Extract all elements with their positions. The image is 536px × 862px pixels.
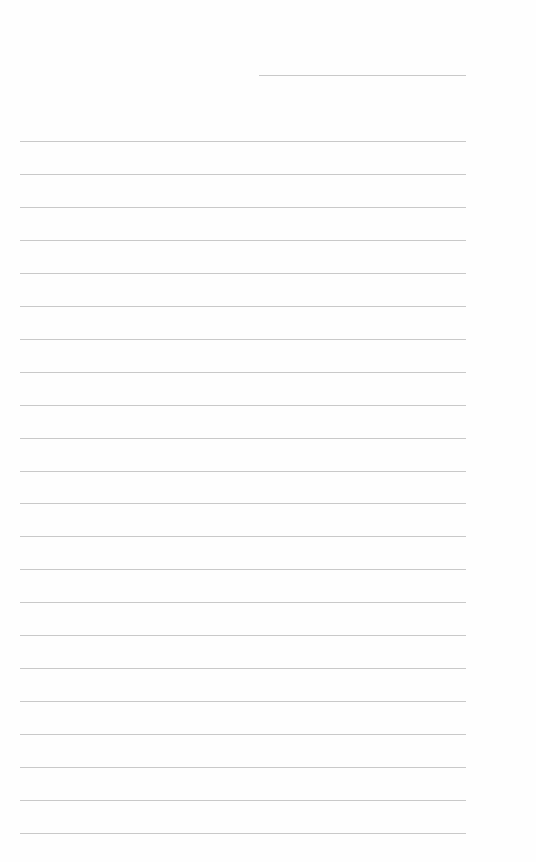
ruled-line: [20, 602, 466, 603]
ruled-line: [20, 372, 466, 373]
ruled-line: [20, 273, 466, 274]
ruled-line: [20, 438, 466, 439]
ruled-line: [20, 207, 466, 208]
ruled-line: [20, 471, 466, 472]
ruled-line: [20, 569, 466, 570]
ruled-line: [20, 141, 466, 142]
ruled-line: [20, 701, 466, 702]
ruled-line: [20, 833, 466, 834]
ruled-line: [20, 767, 466, 768]
ruled-line: [20, 536, 466, 537]
ruled-line: [20, 174, 466, 175]
ruled-line: [20, 306, 466, 307]
ruled-line: [20, 635, 466, 636]
ruled-line: [20, 339, 466, 340]
ruled-line: [20, 503, 466, 504]
ruled-line: [20, 668, 466, 669]
ruled-line: [20, 734, 466, 735]
lined-paper-page: [0, 0, 536, 862]
ruled-line: [20, 405, 466, 406]
header-date-line: [259, 75, 466, 76]
ruled-line: [20, 240, 466, 241]
ruled-line: [20, 800, 466, 801]
